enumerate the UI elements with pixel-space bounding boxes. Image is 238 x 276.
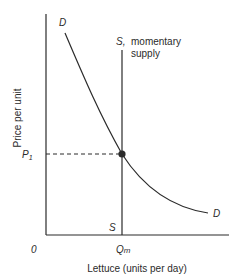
momentary-label: momentary — [131, 36, 181, 47]
demand-label-top: D — [59, 17, 66, 28]
equilibrium-point — [118, 150, 125, 157]
origin-label: 0 — [31, 244, 37, 255]
y-axis-label: Price per unit — [12, 88, 23, 147]
supply-label: supply — [131, 48, 160, 59]
p1-sub: 1 — [29, 154, 33, 161]
demand-curve — [65, 33, 208, 213]
supply-demand-chart: D D S, momentary supply S P1 Qm 0 Lettuc… — [0, 0, 238, 276]
x-axis-label: Lettuce (units per day) — [87, 263, 187, 274]
qm-sub: m — [124, 246, 131, 255]
supply-label-bottom: S — [109, 222, 116, 233]
supply-label-top: S, — [116, 36, 125, 47]
price-tick-p1: P1 — [22, 149, 33, 161]
demand-label-bottom: D — [213, 208, 220, 219]
quantity-tick-qm: Qm — [116, 244, 131, 255]
